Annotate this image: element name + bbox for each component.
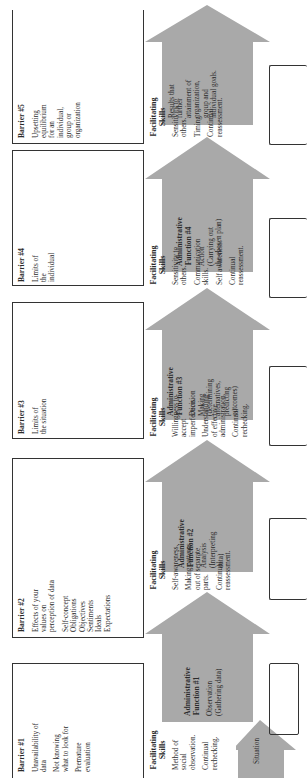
facilitating-skills-3: Facilitating Skills Willingness to accep…: [149, 347, 239, 437]
empty-box-5: [269, 65, 307, 145]
facilitating-skills-2: Facilitating Skills Self-awareness. Maki…: [149, 500, 239, 590]
barrier-2: Barrier #2 Effects of your values on per…: [18, 462, 138, 632]
barrier-1-text-3: Premature evaluation: [75, 726, 92, 772]
facilitating-skills-5: Facilitating Skills Sensitivity to other…: [149, 47, 229, 137]
barrier-5-text: Upsetting equilibrium for an individual,…: [32, 98, 82, 138]
barrier-2-text-1: Effects of your values on perception of …: [32, 574, 57, 632]
facilitating-skills-1: Facilitating Skills Method of social obs…: [149, 680, 239, 770]
barrier-2-title: Barrier #2: [18, 462, 27, 632]
barrier-1: Barrier #1 Unavailability of data Not kn…: [18, 664, 138, 772]
barrier-3-text: Limits of the situation: [32, 398, 49, 434]
barrier-3-title: Barrier #3: [18, 306, 27, 434]
empty-box-3: [269, 366, 307, 446]
barrier-1-title: Barrier #1: [18, 664, 27, 772]
barrier-4-title: Barrier #4: [18, 156, 27, 282]
barrier-3: Barrier #3 Limits of the situation: [18, 306, 118, 434]
empty-box-2: [269, 518, 307, 600]
barrier-4: Barrier #4 Limits of the individual: [18, 156, 118, 282]
barrier-5: Barrier #5 Upsetting equilibrium for an …: [18, 16, 118, 138]
barrier-2-text-2: Self-concept Obligations Objectives Sent…: [62, 586, 112, 632]
barrier-1-text-2: Not knowing what to look for: [53, 722, 70, 772]
empty-box-1: [269, 663, 299, 735]
barrier-4-text: Limits of the individual: [32, 246, 57, 282]
situation-label: Situation: [253, 729, 273, 773]
facilitating-skills-4: Facilitating Skills Sensitivity to other…: [149, 195, 239, 285]
barrier-5-title: Barrier #5: [18, 16, 27, 138]
barrier-1-text-1: Unavailability of data: [32, 722, 49, 772]
empty-box-4: [269, 218, 307, 298]
